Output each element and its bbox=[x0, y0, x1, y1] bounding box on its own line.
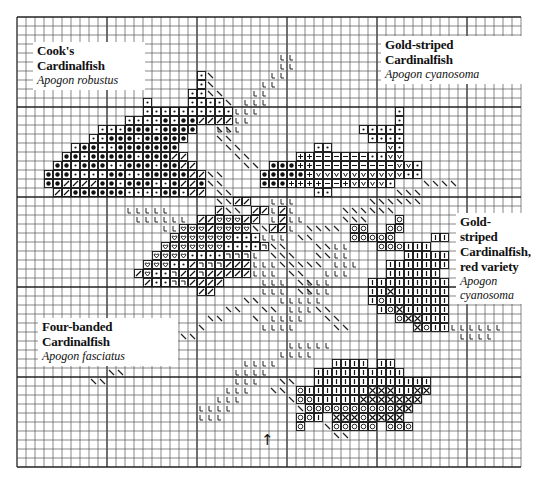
label-gold-striped-red-variety: Gold-striped Cardinalfish, red variety A… bbox=[456, 213, 530, 304]
center-arrow-icon: ↑ bbox=[261, 433, 274, 448]
label-four-banded-cardinalfish: Four-banded Cardinalfish Apogon fasciatu… bbox=[38, 318, 178, 366]
common-name: Gold-striped Cardinalfish bbox=[385, 38, 518, 68]
label-cooks-cardinalfish: Cook's Cardinalfish Apogon robustus bbox=[33, 42, 145, 90]
region-four-banded-cardinalfish bbox=[135, 198, 287, 296]
stitch-symbols bbox=[45, 55, 501, 438]
label-gold-striped-cardinalfish: Gold-striped Cardinalfish Apogon cyanoso… bbox=[381, 36, 522, 84]
scientific-name: Apogon cyanosoma bbox=[460, 275, 526, 303]
scientific-name: Apogon robustus bbox=[37, 74, 141, 88]
common-name: Cook's Cardinalfish bbox=[37, 44, 141, 74]
common-name: Gold-striped Cardinalfish, red variety bbox=[460, 215, 526, 275]
scientific-name: Apogon cyanosoma bbox=[385, 68, 518, 82]
scientific-name: Apogon fasciatus bbox=[42, 350, 174, 364]
common-name: Four-banded Cardinalfish bbox=[42, 320, 174, 350]
